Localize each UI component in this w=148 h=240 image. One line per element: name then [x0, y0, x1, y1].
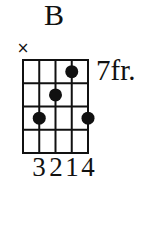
- finger-dot-icon: [82, 112, 95, 125]
- finger-number-string-5: 4: [80, 153, 96, 181]
- finger-number-string-3: 2: [48, 153, 64, 181]
- finger-number-string-4: 1: [64, 153, 80, 181]
- finger-numbers: 3 2 1 4: [0, 153, 148, 181]
- finger-dot-icon: [49, 88, 62, 101]
- finger-dot-icon: [65, 65, 78, 78]
- finger-number-string-2: 3: [31, 153, 47, 181]
- finger-dot-icon: [33, 112, 46, 125]
